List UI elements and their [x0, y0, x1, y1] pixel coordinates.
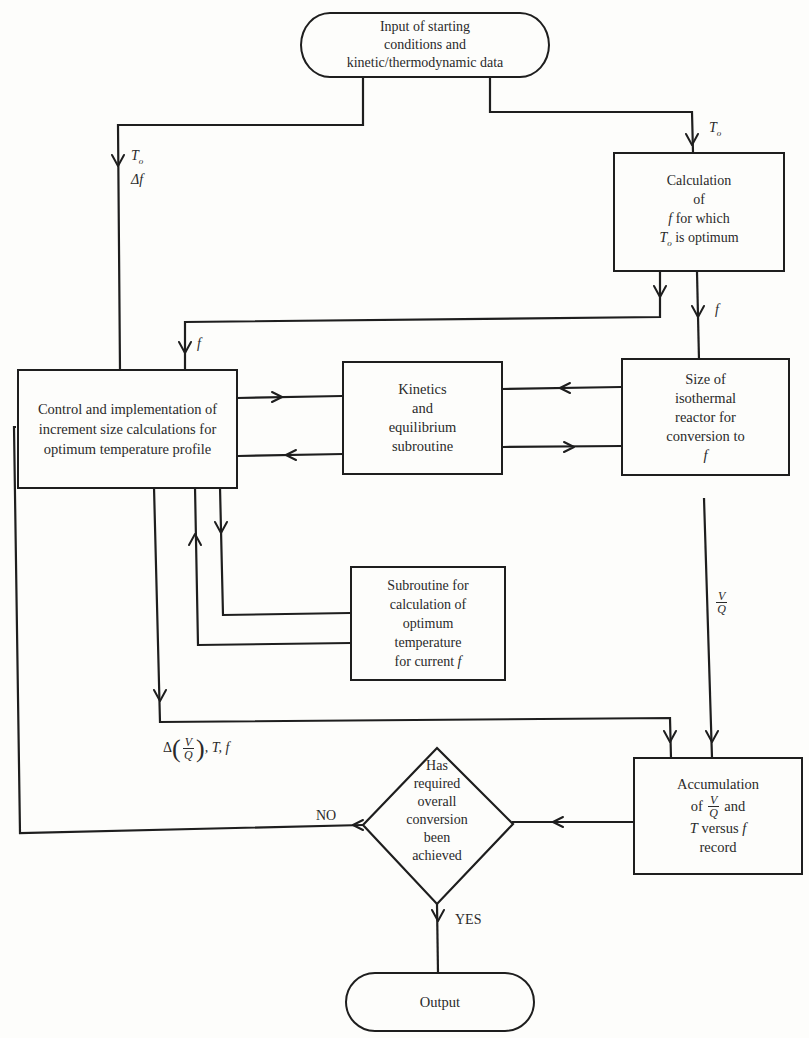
isothermal-line-3: reactor for	[675, 408, 736, 427]
decision-line-2: required	[387, 775, 487, 793]
edge-label-no: NO	[316, 808, 336, 824]
isothermal-line-4: conversion to	[666, 427, 745, 446]
edge-kinetics-to-control	[238, 454, 343, 456]
control-line-1: Control and implementation of	[38, 399, 217, 419]
edge-label-to-left: To	[131, 148, 143, 169]
control-line-2: increment size calculations for	[39, 419, 217, 439]
edge-opttemp-to-control	[195, 487, 351, 645]
calc-f-line-2: of	[693, 190, 705, 209]
output-label: Output	[420, 993, 460, 1012]
isothermal-line-5: f	[703, 446, 707, 465]
opt-temp-line-3: optimum	[403, 614, 454, 633]
kinetics-line-1: Kinetics	[398, 380, 446, 399]
kinetics-line-3: equilibrium	[389, 418, 457, 437]
edge-label-delta-vq-t-f: Δ(VQ), T, f	[163, 736, 229, 761]
input-terminal: Input of starting conditions and kinetic…	[300, 12, 550, 78]
isothermal-box: Size of isothermal reactor for conversio…	[621, 358, 790, 476]
isothermal-line-1: Size of	[685, 370, 726, 389]
edge-label-f-right: f	[715, 302, 719, 318]
decision-line-1: Has	[387, 757, 487, 775]
decision-line-4: conversion	[387, 811, 487, 829]
accumulation-line-4: record	[699, 838, 736, 857]
accumulation-line-3: T versus f	[690, 819, 746, 838]
control-line-3: optimum temperature profile	[44, 439, 212, 459]
opt-temp-line-5: for current f	[395, 652, 462, 671]
edge-input-to-calc	[490, 78, 693, 152]
decision-line-3: overall	[387, 793, 487, 811]
calc-f-line-4: To is optimum	[659, 228, 738, 253]
decision-line-6: achieved	[387, 847, 487, 865]
edge-label-yes: YES	[455, 912, 481, 928]
accumulation-box: Accumulation of VQ and T versus f record	[633, 757, 803, 875]
edge-kinetics-to-isothermal	[503, 446, 622, 447]
opt-temp-line-4: temperature	[395, 633, 462, 652]
input-line-2: conditions and	[384, 36, 466, 54]
accumulation-line-2: of VQ and	[691, 794, 745, 819]
calc-f-box: Calculation of f for which To is optimum	[613, 152, 785, 272]
edge-label-delta-f: Δf	[131, 172, 143, 188]
output-terminal: Output	[345, 972, 535, 1032]
input-line-3: kinetic/thermodynamic data	[347, 54, 504, 72]
isothermal-line-2: isothermal	[675, 389, 736, 408]
calc-f-line-1: Calculation	[667, 171, 732, 190]
edge-isothermal-to-accumulation	[704, 498, 712, 758]
decision-line-5: been	[387, 829, 487, 847]
opt-temp-line-1: Subroutine for	[387, 576, 468, 595]
edge-label-to-right: To	[709, 120, 721, 141]
input-line-1: Input of starting	[380, 18, 470, 36]
decision-text: Has required overall conversion been ach…	[387, 757, 487, 865]
kinetics-line-2: and	[412, 399, 433, 418]
opt-temp-line-2: calculation of	[390, 595, 467, 614]
edge-control-to-opttemp	[220, 487, 350, 615]
edge-calc-to-control	[185, 272, 660, 370]
edge-label-v-over-q: VQ	[714, 590, 729, 615]
edge-decision-yes-to-output	[437, 904, 438, 973]
edge-control-to-kinetics	[237, 396, 342, 398]
kinetics-line-4: subroutine	[392, 437, 453, 456]
accumulation-line-1: Accumulation	[677, 775, 759, 794]
opt-temp-box: Subroutine for calculation of optimum te…	[350, 566, 506, 681]
edge-input-to-control	[118, 78, 363, 370]
kinetics-box: Kinetics and equilibrium subroutine	[342, 361, 503, 475]
calc-f-line-3: f for which	[668, 209, 729, 228]
edge-label-f-left: f	[197, 336, 201, 352]
control-box: Control and implementation of increment …	[17, 369, 238, 489]
